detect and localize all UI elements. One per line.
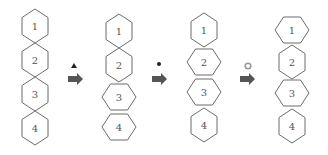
hexagon-label: 1	[289, 25, 295, 36]
hexagon-3: 3	[22, 77, 48, 111]
hexagon-label: 4	[116, 122, 122, 133]
hexagon-label: 2	[32, 55, 38, 66]
right-arrow-icon	[152, 73, 167, 85]
hexagon-label: 4	[32, 123, 38, 134]
hexagon-label: 4	[289, 121, 295, 132]
hexagon-2: 2	[187, 49, 221, 75]
hexagon-column-2: 1234	[102, 14, 136, 140]
hexagon-label: 3	[201, 87, 207, 98]
triangle-icon	[71, 63, 77, 68]
right-arrow-icon	[240, 73, 255, 85]
hexagon-label: 1	[116, 26, 122, 37]
hexagon-label: 2	[289, 57, 295, 68]
hexagon-2: 2	[106, 48, 132, 82]
hexagon-3: 3	[187, 79, 221, 105]
hexagon-2: 2	[279, 45, 305, 79]
hexagon-1: 1	[191, 13, 217, 47]
hexagon-1: 1	[275, 17, 309, 43]
hexagon-label: 3	[116, 92, 122, 103]
hexagon-2: 2	[22, 43, 48, 77]
hexagon-1: 1	[22, 9, 48, 43]
hexagon-label: 3	[32, 89, 38, 100]
hexagon-label: 4	[201, 120, 207, 131]
hexagon-4: 4	[102, 114, 136, 140]
transition-1	[68, 63, 83, 85]
hexagon-label: 1	[32, 21, 38, 32]
hexagon-4: 4	[279, 109, 305, 143]
right-arrow-icon	[68, 73, 83, 85]
hexagon-label: 2	[116, 60, 122, 71]
hexagon-4: 4	[22, 111, 48, 145]
transition-3	[240, 63, 255, 85]
dot-icon	[157, 62, 161, 66]
hexagon-column-1: 1234	[22, 9, 48, 145]
transitions-group	[68, 62, 255, 85]
hexagon-label: 2	[201, 57, 207, 68]
hexagon-column-3: 1234	[187, 13, 221, 142]
hexagon-transformation-diagram: 1234123412341234	[0, 0, 328, 155]
hexagon-3: 3	[275, 80, 309, 106]
hexagon-label: 3	[289, 88, 295, 99]
hexagon-column-4: 1234	[275, 17, 309, 143]
transition-2	[152, 62, 167, 85]
hexagon-label: 1	[201, 25, 207, 36]
ring-icon	[245, 63, 251, 69]
stages-group: 1234123412341234	[22, 9, 309, 145]
hexagon-1: 1	[106, 14, 132, 48]
hexagon-4: 4	[191, 108, 217, 142]
hexagon-3: 3	[102, 84, 136, 110]
